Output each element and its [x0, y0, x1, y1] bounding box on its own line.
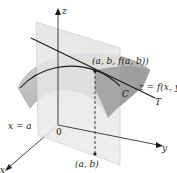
curve-label: C	[122, 89, 129, 99]
partial-derivative-diagram: z y x 0 (a, b, f(a, b)) z = f(x, y) C T …	[0, 0, 177, 173]
origin-label: 0	[56, 127, 62, 137]
plane-label: x = a	[8, 121, 32, 131]
diagram-canvas: z y x 0 (a, b, f(a, b)) z = f(x, y) C T …	[0, 0, 177, 173]
point-a-b-fab	[93, 69, 97, 73]
z-axis-arrow-icon	[55, 8, 61, 15]
point-label: (a, b, f(a, b))	[92, 56, 149, 66]
point-a-b	[93, 152, 96, 155]
tangent-label: T	[155, 97, 162, 107]
surface-label: z = f(x, y)	[138, 82, 177, 92]
x-axis-label: x	[0, 165, 5, 173]
z-axis-label: z	[61, 6, 67, 16]
base-point-label: (a, b)	[75, 159, 99, 169]
y-axis-label: y	[161, 143, 168, 153]
